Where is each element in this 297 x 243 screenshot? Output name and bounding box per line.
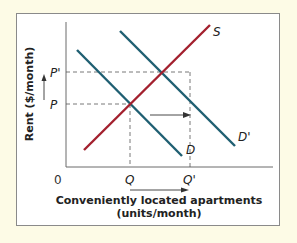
- p-tick: P: [50, 98, 58, 112]
- demand-label: D: [186, 143, 195, 157]
- supply-demand-chart: S D D' P' P 0 Q Q' Conveniently located …: [0, 0, 297, 243]
- p-prime-tick: P': [50, 66, 61, 80]
- x-axis-title-line2: (units/month): [116, 207, 201, 220]
- x-axis-title-line1: Conveniently located apartments: [56, 194, 263, 207]
- origin-label: 0: [54, 173, 62, 187]
- q-tick: Q: [125, 173, 134, 187]
- supply-curve: [84, 25, 210, 150]
- y-axis-title: Rent ($/month): [23, 47, 36, 142]
- quantity-arrowhead-icon: [181, 188, 189, 193]
- demand-curve-d-prime: [120, 31, 235, 146]
- supply-label: S: [213, 25, 221, 39]
- demand-prime-label: D': [238, 130, 251, 144]
- q-prime-tick: Q': [183, 173, 196, 187]
- price-arrowhead-icon: [42, 74, 47, 81]
